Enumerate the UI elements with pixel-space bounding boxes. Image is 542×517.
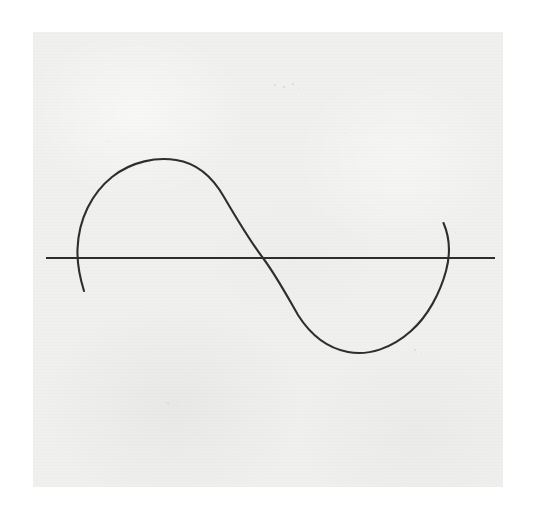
dust-speck [283, 86, 285, 88]
sine-curve-path [77, 159, 448, 353]
dust-speck [414, 349, 416, 351]
dust-speck [176, 406, 177, 407]
dust-speck [298, 88, 299, 89]
figure-root [0, 0, 542, 517]
dust-speck [345, 133, 346, 134]
dust-speck [421, 352, 422, 353]
dust-speck [292, 83, 294, 85]
dust-speck [167, 402, 169, 404]
dust-speck [107, 141, 108, 142]
dust-speck [455, 232, 456, 233]
dust-speck [274, 84, 276, 86]
sine-wave-drawing [0, 0, 542, 517]
